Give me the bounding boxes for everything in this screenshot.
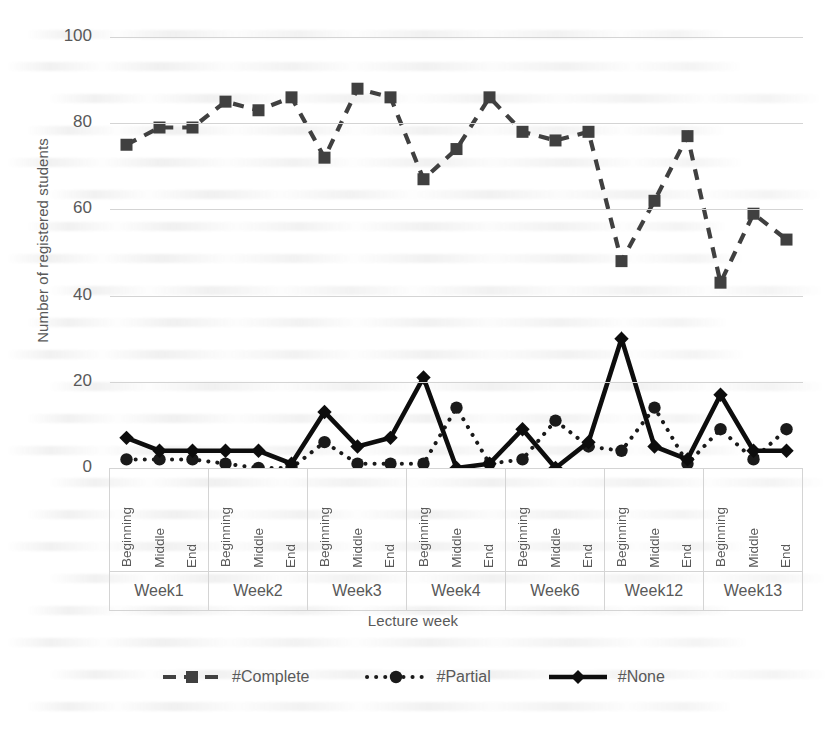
x-axis-subcategory-text: End — [481, 544, 496, 568]
legend-item-label: #Complete — [232, 668, 309, 686]
data-point-marker — [779, 444, 793, 458]
gridline-80 — [110, 123, 803, 124]
data-point-marker — [616, 255, 628, 267]
x-axis-subcategory-label: Beginning — [110, 468, 143, 571]
x-axis-subcategory-label: Middle — [638, 468, 671, 571]
x-axis-subcategory-label: Middle — [242, 468, 275, 571]
x-axis-subcategory-text: End — [184, 544, 199, 568]
x-axis-subcategory-row: BeginningMiddleEnd — [506, 468, 604, 572]
x-axis-subcategory-label: End — [670, 468, 703, 571]
data-point-marker — [484, 91, 496, 103]
y-tick-label: 20 — [0, 371, 92, 391]
x-axis-subcategory-text: Middle — [449, 528, 464, 568]
data-point-marker — [218, 444, 232, 458]
data-point-marker — [614, 332, 628, 346]
x-axis-week-group: BeginningMiddleEndWeek12 — [604, 468, 704, 611]
x-axis-subcategory-label: Beginning — [704, 468, 737, 571]
x-axis-week-label: Week12 — [605, 572, 703, 610]
x-axis-subcategory-label: Middle — [539, 468, 572, 571]
legend-item-partial[interactable]: #Partial — [365, 668, 490, 686]
gridline-60 — [110, 209, 803, 210]
x-axis-subcategory-label: Middle — [440, 468, 473, 571]
y-tick-label: 80 — [0, 112, 92, 132]
series-none — [119, 332, 793, 469]
gridline-100 — [110, 37, 803, 38]
data-point-marker — [120, 453, 132, 465]
x-axis-week-group: BeginningMiddleEndWeek2 — [208, 468, 308, 611]
gridline-40 — [110, 296, 803, 297]
x-axis-week-label: Week1 — [110, 572, 208, 610]
data-point-marker — [517, 126, 529, 138]
data-point-marker — [682, 130, 694, 142]
data-point-marker — [251, 444, 265, 458]
data-point-marker — [384, 457, 396, 468]
data-point-marker — [615, 445, 627, 457]
x-axis-title: Lecture week — [0, 612, 826, 629]
data-point-marker — [451, 143, 463, 155]
dashed-square-marker-icon — [161, 669, 223, 685]
x-axis-subcategory-label: Middle — [341, 468, 374, 571]
solid-diamond-marker-icon — [547, 669, 609, 685]
data-point-marker — [418, 173, 430, 185]
chart-figure: Number of registered students 100 80 60 … — [0, 0, 826, 739]
legend-item-complete[interactable]: #Complete — [161, 668, 309, 686]
x-axis-subcategory-text: Beginning — [416, 507, 431, 567]
x-axis-week-label: Week13 — [704, 572, 802, 610]
x-axis-subcategory-text: Middle — [647, 528, 662, 568]
x-axis-subcategory-label: Beginning — [407, 468, 440, 571]
data-point-marker — [220, 96, 232, 108]
x-axis-week-group: BeginningMiddleEndWeek13 — [703, 468, 803, 611]
x-axis-subcategory-text: Beginning — [317, 507, 332, 567]
data-point-marker — [318, 436, 330, 448]
data-point-marker — [583, 126, 595, 138]
x-axis-subcategory-row: BeginningMiddleEnd — [308, 468, 406, 572]
x-axis-subcategory-text: Beginning — [713, 507, 728, 567]
x-axis-subcategory-label: Middle — [737, 468, 770, 571]
data-point-marker — [351, 457, 363, 468]
chart-legend: #Complete#Partial#None — [0, 668, 826, 686]
x-axis-subcategory-label: Beginning — [605, 468, 638, 571]
data-point-marker — [714, 423, 726, 435]
series-complete — [121, 83, 793, 289]
legend-item-label: #Partial — [436, 668, 490, 686]
data-point-marker — [780, 423, 792, 435]
x-axis-week-group: BeginningMiddleEndWeek6 — [505, 468, 605, 611]
x-axis-subcategory-label: Middle — [143, 468, 176, 571]
x-axis-subcategory-label: End — [274, 468, 307, 571]
x-axis-subcategory-text: End — [679, 544, 694, 568]
x-axis-subcategory-label: Beginning — [209, 468, 242, 571]
x-axis-subcategory-label: End — [769, 468, 802, 571]
data-point-marker — [119, 431, 133, 445]
data-point-marker — [385, 91, 397, 103]
series-layer — [110, 37, 803, 468]
x-axis-subcategory-text: Beginning — [515, 507, 530, 567]
x-axis-subcategory-text: End — [778, 544, 793, 568]
data-point-marker — [781, 234, 793, 246]
x-axis-subcategory-label: End — [571, 468, 604, 571]
data-point-marker — [647, 439, 661, 453]
x-axis-week-label: Week6 — [506, 572, 604, 610]
x-axis-subcategory-row: BeginningMiddleEnd — [704, 468, 802, 572]
x-axis-subcategory-row: BeginningMiddleEnd — [209, 468, 307, 572]
x-axis-week-label: Week4 — [407, 572, 505, 610]
data-point-marker — [449, 461, 463, 468]
data-point-marker — [121, 139, 133, 151]
x-axis-week-group: BeginningMiddleEndWeek1 — [109, 468, 209, 611]
data-point-marker — [550, 134, 562, 146]
x-axis-subcategory-row: BeginningMiddleEnd — [605, 468, 703, 572]
data-point-marker — [549, 414, 561, 426]
x-axis-subcategory-label: End — [472, 468, 505, 571]
x-axis-subcategory-text: End — [580, 544, 595, 568]
legend-item-none[interactable]: #None — [547, 668, 665, 686]
y-tick-label: 60 — [0, 198, 92, 218]
data-point-marker — [253, 104, 265, 116]
x-axis-subcategory-row: BeginningMiddleEnd — [407, 468, 505, 572]
data-point-marker — [450, 401, 462, 413]
data-point-marker — [648, 401, 660, 413]
gridline-20 — [110, 382, 803, 383]
y-tick-label: 100 — [0, 26, 92, 46]
x-axis-category-band: BeginningMiddleEndWeek1BeginningMiddleEn… — [110, 468, 803, 611]
dotted-circle-marker-icon — [365, 669, 427, 685]
x-axis-subcategory-label: End — [175, 468, 208, 571]
x-axis-subcategory-text: Beginning — [119, 507, 134, 567]
